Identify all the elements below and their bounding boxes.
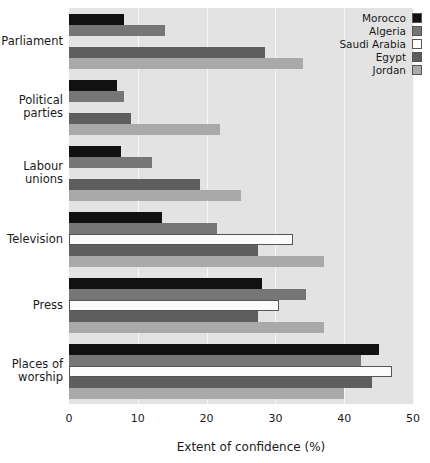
legend-swatch xyxy=(412,26,422,36)
bar-algeria xyxy=(69,355,361,366)
y-category-label: Press xyxy=(0,299,63,312)
chart-root: ParliamentPoliticalpartiesLabourunionsTe… xyxy=(0,0,430,463)
legend: MoroccoAlgeriaSaudi ArabiaEgyptJordan xyxy=(339,12,422,76)
bar-algeria xyxy=(69,25,165,36)
bar-egypt xyxy=(69,47,265,58)
bar-jordan xyxy=(69,190,241,201)
y-category-label: Places ofworship xyxy=(0,358,63,384)
bar-algeria xyxy=(69,223,217,234)
y-category-label: Parliament xyxy=(0,35,63,48)
bar-saudi-arabia xyxy=(69,234,293,245)
x-tick-label: 30 xyxy=(268,412,282,425)
bar-group xyxy=(69,74,413,140)
bar-jordan xyxy=(69,58,303,69)
legend-label: Egypt xyxy=(376,51,406,63)
x-tick-label: 20 xyxy=(200,412,214,425)
legend-label: Morocco xyxy=(362,12,406,24)
y-category-label: Politicalparties xyxy=(0,94,63,120)
bar-algeria xyxy=(69,157,152,168)
bar-jordan xyxy=(69,322,324,333)
bar-group xyxy=(69,206,413,272)
x-tick-label: 10 xyxy=(131,412,145,425)
bar-egypt xyxy=(69,311,258,322)
bar-morocco xyxy=(69,344,379,355)
x-axis-label: Extent of confidence (%) xyxy=(0,440,430,454)
legend-label: Jordan xyxy=(373,64,406,76)
y-category-label: Labourunions xyxy=(0,160,63,186)
bar-saudi-arabia xyxy=(69,300,279,311)
bar-algeria xyxy=(69,289,306,300)
bar-morocco xyxy=(69,80,117,91)
bar-saudi-arabia xyxy=(69,366,392,377)
legend-item: Saudi Arabia xyxy=(339,38,422,50)
bar-morocco xyxy=(69,14,124,25)
x-tick-label: 40 xyxy=(337,412,351,425)
bar-egypt xyxy=(69,245,258,256)
legend-swatch xyxy=(412,13,422,23)
x-tick-label: 50 xyxy=(406,412,420,425)
bar-egypt xyxy=(69,113,131,124)
legend-swatch xyxy=(412,65,422,75)
bar-algeria xyxy=(69,91,124,102)
bar-morocco xyxy=(69,278,262,289)
bar-egypt xyxy=(69,179,200,190)
legend-item: Morocco xyxy=(339,12,422,24)
legend-swatch xyxy=(412,39,422,49)
bar-jordan xyxy=(69,388,344,399)
x-axis-label-text: Extent of confidence (%) xyxy=(105,440,326,454)
legend-label: Algeria xyxy=(369,25,406,37)
x-axis: 01020304050 Extent of confidence (%) xyxy=(0,404,430,463)
bar-jordan xyxy=(69,124,220,135)
legend-swatch xyxy=(412,52,422,62)
legend-item: Jordan xyxy=(339,64,422,76)
bar-group xyxy=(69,140,413,206)
legend-label: Saudi Arabia xyxy=(339,38,406,50)
x-tick-label: 0 xyxy=(66,412,73,425)
y-category-label: Television xyxy=(0,233,63,246)
bar-morocco xyxy=(69,146,121,157)
bar-morocco xyxy=(69,212,162,223)
bar-group xyxy=(69,338,413,404)
legend-item: Algeria xyxy=(339,25,422,37)
legend-item: Egypt xyxy=(339,51,422,63)
bar-group xyxy=(69,272,413,338)
bar-jordan xyxy=(69,256,324,267)
bar-egypt xyxy=(69,377,372,388)
